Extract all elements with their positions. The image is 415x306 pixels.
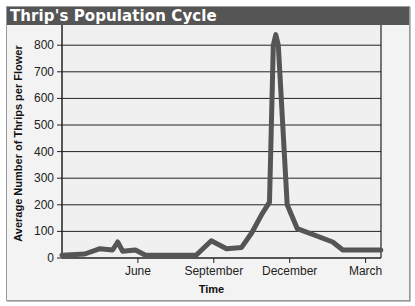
y-tick-label: 800 xyxy=(34,38,54,52)
x-axis-title: Time xyxy=(199,283,224,295)
y-tick-label: 200 xyxy=(34,198,54,212)
y-axis-title: Average Number of Thrips per Flower xyxy=(12,45,24,242)
x-tick-label: September xyxy=(184,264,243,278)
y-tick-label: 600 xyxy=(34,91,54,105)
y-tick-label: 100 xyxy=(34,224,54,238)
y-tick-label: 500 xyxy=(34,118,54,132)
y-tick-label: 300 xyxy=(34,171,54,185)
plot-area xyxy=(62,25,381,258)
line-chart: 0100200300400500600700800JuneSeptemberDe… xyxy=(0,0,415,306)
x-tick-label: December xyxy=(262,264,317,278)
y-tick-label: 400 xyxy=(34,145,54,159)
x-tick-label: June xyxy=(125,264,151,278)
y-tick-label: 700 xyxy=(34,65,54,79)
x-tick-label: March xyxy=(349,264,382,278)
y-tick-label: 0 xyxy=(47,251,54,265)
